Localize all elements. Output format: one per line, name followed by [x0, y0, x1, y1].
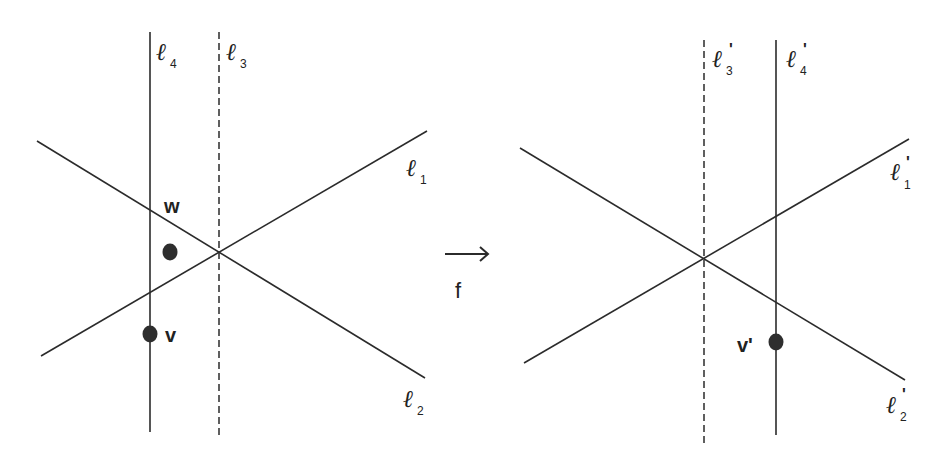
svg-text:': ' — [906, 154, 910, 171]
point-v-label: v — [165, 324, 177, 346]
point-v — [143, 326, 158, 343]
svg-text:2: 2 — [900, 410, 907, 424]
svg-text:ℓ: ℓ — [406, 154, 416, 182]
svg-text:ℓ: ℓ — [403, 385, 413, 413]
svg-text:3: 3 — [240, 57, 247, 71]
svg-text:4: 4 — [800, 64, 807, 78]
svg-text:ℓ: ℓ — [226, 38, 236, 66]
point-v-prime-label: v' — [737, 334, 753, 356]
svg-text:1: 1 — [904, 178, 911, 192]
svg-text:ℓ: ℓ — [786, 45, 796, 73]
svg-text:3: 3 — [726, 64, 733, 78]
svg-text:4: 4 — [170, 57, 177, 71]
svg-text:ℓ: ℓ — [890, 158, 900, 186]
label-l1-prime: ℓ 1 ' — [890, 154, 911, 192]
svg-text:': ' — [803, 41, 807, 58]
map-label-f: f — [455, 278, 462, 303]
label-l3: ℓ 3 — [226, 38, 247, 71]
svg-text:': ' — [729, 41, 733, 58]
svg-text:ℓ: ℓ — [156, 38, 166, 66]
point-w-label: w — [163, 195, 180, 217]
point-v-prime — [769, 334, 784, 351]
right-panel: ℓ 3 ' ℓ 4 ' ℓ 1 ' ℓ 2 ' v' — [520, 40, 911, 443]
label-l3-prime: ℓ 3 ' — [712, 41, 733, 78]
label-l2: ℓ 2 — [403, 385, 424, 418]
label-l2-prime: ℓ 2 ' — [886, 386, 907, 424]
mapping-arrow: f — [445, 247, 488, 303]
svg-text:ℓ: ℓ — [886, 391, 896, 419]
label-l4: ℓ 4 — [156, 38, 177, 71]
point-w — [163, 244, 178, 261]
line-l1-prime — [524, 139, 909, 363]
line-l2-prime — [520, 148, 905, 380]
label-l4-prime: ℓ 4 ' — [786, 41, 807, 78]
svg-text:1: 1 — [420, 173, 427, 187]
line-l2 — [37, 141, 425, 378]
svg-text:': ' — [902, 386, 906, 403]
left-panel: ℓ 4 ℓ 3 ℓ 1 ℓ 2 w v — [37, 32, 427, 437]
svg-text:ℓ: ℓ — [712, 45, 722, 73]
label-l1: ℓ 1 — [406, 154, 427, 187]
line-l1 — [41, 131, 427, 356]
line-transformation-diagram: ℓ 4 ℓ 3 ℓ 1 ℓ 2 w v f ℓ 3 — [0, 0, 943, 463]
svg-text:2: 2 — [417, 404, 424, 418]
